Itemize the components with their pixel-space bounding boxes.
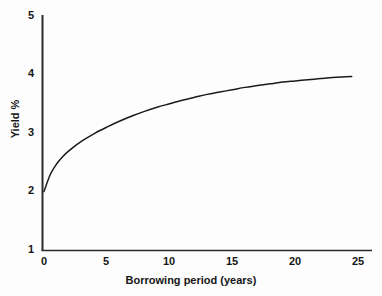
x-tick-label-10: 10 — [156, 256, 182, 267]
y-tick-label-4: 4 — [18, 68, 34, 79]
y-axis-title: Yield % — [9, 100, 21, 139]
x-tick-label-20: 20 — [282, 256, 308, 267]
x-tick-label-15: 15 — [219, 256, 245, 267]
y-axis-title-wrapper: Yield % — [5, 89, 23, 149]
x-tick-label-5: 5 — [93, 256, 119, 267]
yield-curve-line — [44, 77, 352, 192]
y-tick-label-5: 5 — [18, 10, 34, 21]
chart-figure: 5 4 3 2 1 0 5 10 15 20 25 Borrowing peri… — [0, 0, 382, 296]
y-tick-label-2: 2 — [18, 185, 34, 196]
x-tick-label-25: 25 — [345, 256, 371, 267]
x-axis-title: Borrowing period (years) — [0, 274, 382, 286]
y-tick-label-1: 1 — [18, 244, 34, 255]
x-tick-label-0: 0 — [31, 256, 57, 267]
plot-area — [0, 0, 382, 296]
